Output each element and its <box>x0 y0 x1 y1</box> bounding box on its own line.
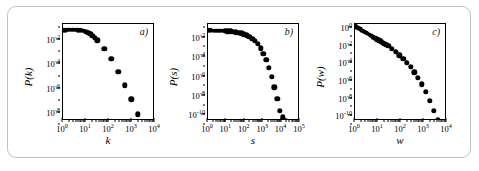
x-tick-label: 104 <box>440 122 452 134</box>
panel-a-plot-box: a) <box>62 23 154 120</box>
panel-a-plot-area <box>63 24 153 119</box>
y-tick-minor <box>203 75 205 76</box>
y-tick-minor <box>203 56 205 57</box>
data-point <box>261 51 266 56</box>
x-tick-minor <box>72 120 73 122</box>
data-point <box>263 57 268 62</box>
y-tick-minor <box>203 65 205 66</box>
data-point <box>415 75 420 80</box>
x-tick-label: 102 <box>102 122 114 134</box>
x-tick-minor <box>106 120 107 122</box>
x-tick-minor <box>429 120 430 122</box>
x-tick-minor <box>360 120 361 122</box>
x-tick-minor <box>75 120 76 122</box>
y-tick-minor <box>203 114 205 115</box>
x-tick-minor <box>270 120 271 122</box>
x-tick-label: 101 <box>79 122 91 134</box>
x-tick-minor <box>421 120 422 122</box>
x-tick-label: 102 <box>394 122 406 134</box>
x-tick-minor <box>95 120 96 122</box>
x-tick-minor <box>141 120 142 122</box>
x-tick-minor <box>410 120 411 122</box>
x-tick-label: 101 <box>220 122 232 134</box>
data-point <box>129 97 134 102</box>
x-tick-minor <box>118 120 119 122</box>
x-tick-minor <box>279 120 280 122</box>
data-point <box>275 96 280 101</box>
x-tick-minor <box>230 120 231 122</box>
panel-a-x-axis-label: k <box>62 134 154 146</box>
y-tick-minor <box>58 39 60 40</box>
panel-c-x-axis-label: w <box>354 134 446 146</box>
x-tick-label: 100 <box>348 122 360 134</box>
x-tick-minor <box>364 120 365 122</box>
x-tick-minor <box>298 120 299 122</box>
x-tick-minor <box>242 120 243 122</box>
panel-b-plot-area <box>208 24 298 119</box>
data-point <box>115 69 120 74</box>
x-tick-minor <box>436 120 437 122</box>
x-tick-mark <box>108 118 109 122</box>
x-tick-minor <box>249 120 250 122</box>
y-tick-minor <box>58 99 60 100</box>
x-tick-mark <box>354 118 355 122</box>
y-tick-minor <box>58 75 60 76</box>
x-tick-minor <box>261 120 262 122</box>
x-tick-mark <box>207 118 208 122</box>
x-tick-minor <box>91 120 92 122</box>
x-tick-mark <box>85 118 86 122</box>
x-tick-minor <box>252 120 253 122</box>
x-tick-minor <box>390 120 391 122</box>
x-tick-label: 102 <box>238 122 250 134</box>
data-point <box>95 38 100 43</box>
y-tick-minor <box>350 44 352 45</box>
x-tick-minor <box>129 120 130 122</box>
data-point <box>423 89 428 94</box>
y-tick-minor <box>350 35 352 36</box>
y-tick-minor <box>350 79 352 80</box>
panel-b: P(s) 10-210-410-610-810-10 b) 1001011021… <box>161 19 311 151</box>
data-point <box>277 108 282 113</box>
x-tick-mark <box>446 118 447 122</box>
x-tick-mark <box>423 118 424 122</box>
y-tick-minor <box>58 87 60 88</box>
x-tick-label: 103 <box>417 122 429 134</box>
x-tick-label: 101 <box>371 122 383 134</box>
x-tick-minor <box>413 120 414 122</box>
x-tick-label: 105 <box>293 122 305 134</box>
x-tick-minor <box>68 120 69 122</box>
x-tick-label: 100 <box>56 122 68 134</box>
x-tick-label: 104 <box>275 122 287 134</box>
x-tick-label: 104 <box>148 122 160 134</box>
panel-b-label: b) <box>285 26 293 37</box>
y-tick-minor <box>350 62 352 63</box>
x-tick-mark <box>377 118 378 122</box>
y-tick-minor <box>350 106 352 107</box>
y-tick-minor <box>58 27 60 28</box>
x-tick-minor <box>267 120 268 122</box>
x-tick-minor <box>433 120 434 122</box>
x-tick-minor <box>289 120 290 122</box>
x-tick-minor <box>234 120 235 122</box>
y-tick-minor <box>350 97 352 98</box>
x-tick-mark <box>400 118 401 122</box>
x-tick-minor <box>114 120 115 122</box>
x-tick-minor <box>406 120 407 122</box>
y-tick-minor <box>350 115 352 116</box>
x-tick-minor <box>367 120 368 122</box>
y-tick-minor <box>203 46 205 47</box>
x-tick-minor <box>383 120 384 122</box>
x-tick-minor <box>83 120 84 122</box>
data-point <box>269 74 274 79</box>
x-tick-minor <box>215 120 216 122</box>
x-tick-minor <box>398 120 399 122</box>
y-tick-minor <box>350 27 352 28</box>
y-tick-minor <box>203 85 205 86</box>
y-tick-minor <box>350 53 352 54</box>
data-point <box>109 56 114 61</box>
data-point <box>266 65 271 70</box>
data-point <box>427 98 432 103</box>
y-tick-minor <box>350 71 352 72</box>
y-tick-minor <box>203 36 205 37</box>
data-point <box>419 81 424 86</box>
